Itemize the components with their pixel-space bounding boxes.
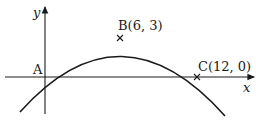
point-a-label: A — [32, 62, 43, 77]
point-c-label: C(12, 0) — [198, 59, 251, 74]
parabola-curve — [20, 56, 225, 116]
point-b-marker — [117, 35, 123, 41]
x-axis-label: x — [243, 80, 251, 95]
parabola-diagram: y x A B(6, 3) C(12, 0) — [0, 0, 260, 120]
point-b-label: B(6, 3) — [118, 18, 163, 33]
y-axis-label: y — [32, 5, 41, 20]
